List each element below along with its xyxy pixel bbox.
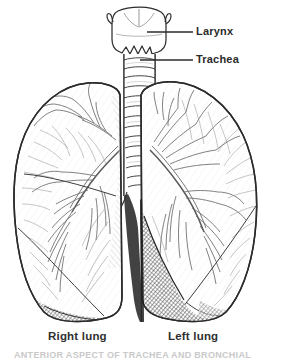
callout-label-trachea: Trachea [196,53,239,65]
label-left-lung: Left lung [168,330,218,342]
mediastinum-shadow [124,194,144,322]
left-lung [138,80,263,332]
figure-caption-strip: ANTERIOR ASPECT OF TRACHEA AND BRONCHIAL [0,352,281,363]
larynx-structure [107,7,171,54]
label-right-lung: Right lung [48,330,107,342]
respiratory-system-figure: Larynx Trachea Right lung Left lung ANTE… [0,0,281,363]
right-lung [10,80,130,330]
callout-label-larynx: Larynx [196,25,233,37]
figure-caption-text: ANTERIOR ASPECT OF TRACHEA AND BRONCHIAL [14,352,251,360]
